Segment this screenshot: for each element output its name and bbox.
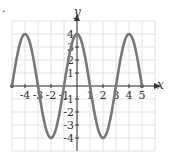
y-tick-label: -4 [63,132,74,145]
bullet: . [2,2,6,15]
y-axis-label: y [73,5,81,19]
sine-chart: -4-3-2-1123454321-1-2-3-4 . y x [0,0,171,164]
axes [10,14,161,151]
y-tick-label: -2 [63,106,74,119]
x-tick-label: -2 [46,89,57,102]
y-tick-label: -1 [63,93,74,106]
x-axis-label: x [157,78,164,92]
y-tick-label: -3 [63,119,74,132]
x-tick-label: -4 [20,89,31,102]
x-tick-label: 5 [139,89,146,102]
x-tick-label: 4 [126,89,133,102]
x-tick-label: 2 [100,89,107,102]
